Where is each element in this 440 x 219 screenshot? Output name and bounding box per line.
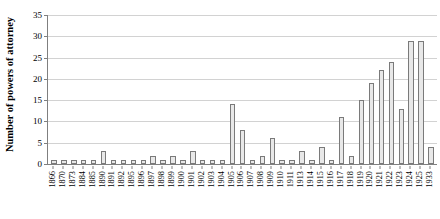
x-label-slot: 1873: [68, 166, 78, 218]
x-label-slot: 1900: [177, 166, 187, 218]
bar[interactable]: [299, 151, 304, 164]
bar-slot: [406, 15, 416, 164]
bar-slot: [317, 15, 327, 164]
x-axis-tick-label: 1902: [198, 171, 206, 188]
x-axis-tick-label: 1920: [366, 171, 374, 188]
bar[interactable]: [190, 151, 195, 164]
x-label-slot: 1914: [306, 166, 316, 218]
x-axis-tick-mark: [320, 166, 321, 169]
bar-slot: [238, 15, 248, 164]
bar[interactable]: [150, 156, 155, 165]
x-label-slot: 1910: [276, 166, 286, 218]
x-label-slot: 1909: [266, 166, 276, 218]
bar[interactable]: [260, 156, 265, 165]
x-axis-tick-mark: [350, 166, 351, 169]
x-axis-tick-mark: [429, 166, 430, 169]
x-axis-tick-mark: [271, 166, 272, 169]
bar-slot: [79, 15, 89, 164]
x-label-slot: 1921: [375, 166, 385, 218]
bar-slot: [267, 15, 277, 164]
bar-slot: [297, 15, 307, 164]
bar-slot: [426, 15, 436, 164]
bar[interactable]: [418, 41, 423, 164]
x-axis-tick-mark: [390, 166, 391, 169]
x-axis-tick-label: 1907: [247, 171, 255, 188]
x-axis-tick-label: 1901: [188, 171, 196, 188]
x-axis-tick-mark: [291, 166, 292, 169]
bar-slot: [158, 15, 168, 164]
x-axis-tick-labels: 1866187018731884188518901891189218951896…: [47, 166, 436, 218]
x-axis-tick-mark: [92, 166, 93, 169]
x-axis-tick-mark: [221, 166, 222, 169]
x-axis-tick-mark: [281, 166, 282, 169]
bar-slot: [287, 15, 297, 164]
x-axis-tick-label: 1916: [327, 171, 335, 188]
bar[interactable]: [230, 104, 235, 164]
bar[interactable]: [170, 156, 175, 165]
x-label-slot: 1924: [405, 166, 415, 218]
x-axis-tick-label: 1910: [277, 171, 285, 188]
x-axis-tick-mark: [132, 166, 133, 169]
x-axis-tick-mark: [142, 166, 143, 169]
bar[interactable]: [379, 70, 384, 164]
bar[interactable]: [240, 130, 245, 164]
x-label-slot: 1922: [385, 166, 395, 218]
x-label-slot: 1901: [187, 166, 197, 218]
x-axis-tick-label: 1892: [118, 171, 126, 188]
bar[interactable]: [428, 147, 433, 164]
x-label-slot: 1896: [137, 166, 147, 218]
bar-slot: [138, 15, 148, 164]
x-label-slot: 1915: [316, 166, 326, 218]
bar-slot: [247, 15, 257, 164]
x-axis-tick-mark: [102, 166, 103, 169]
bar[interactable]: [101, 151, 106, 164]
bar[interactable]: [339, 117, 344, 164]
x-label-slot: 1895: [127, 166, 137, 218]
x-axis-tick-mark: [410, 166, 411, 169]
x-axis-tick-mark: [172, 166, 173, 169]
x-axis-tick-mark: [360, 166, 361, 169]
x-axis-tick-label: 1891: [108, 171, 116, 188]
bar[interactable]: [369, 83, 374, 164]
bar-slot: [416, 15, 426, 164]
bar-slot: [218, 15, 228, 164]
x-axis-tick-mark: [370, 166, 371, 169]
bar[interactable]: [389, 62, 394, 164]
x-axis-tick-label: 1884: [79, 171, 87, 188]
x-axis-tick-mark: [191, 166, 192, 169]
x-axis-tick-mark: [181, 166, 182, 169]
bars-layer: [48, 15, 437, 164]
x-axis-tick-label: 1900: [178, 171, 186, 188]
x-axis-tick-label: 1899: [168, 171, 176, 188]
bar[interactable]: [408, 41, 413, 164]
x-axis-tick-label: 1906: [237, 171, 245, 188]
x-label-slot: 1902: [197, 166, 207, 218]
x-axis-tick-mark: [400, 166, 401, 169]
bar-slot: [118, 15, 128, 164]
x-axis-tick-mark: [330, 166, 331, 169]
x-axis-tick-label: 1925: [416, 171, 424, 188]
x-label-slot: 1918: [346, 166, 356, 218]
x-axis-tick-mark: [211, 166, 212, 169]
bar[interactable]: [349, 156, 354, 165]
x-label-slot: 1913: [296, 166, 306, 218]
bar[interactable]: [359, 100, 364, 164]
x-axis-tick-mark: [112, 166, 113, 169]
x-label-slot: 1897: [147, 166, 157, 218]
bar[interactable]: [319, 147, 324, 164]
y-axis-tick-label: 5: [38, 138, 43, 147]
x-axis-tick-mark: [82, 166, 83, 169]
bar[interactable]: [270, 138, 275, 164]
bar-slot: [168, 15, 178, 164]
x-label-slot: 1923: [395, 166, 405, 218]
x-axis-tick-label: 1919: [356, 171, 364, 188]
y-axis-title: Number of powers of attorney: [0, 0, 20, 168]
y-axis-tick-label: 15: [33, 96, 42, 105]
x-axis-line: [46, 164, 436, 165]
x-label-slot: 1911: [286, 166, 296, 218]
bar-slot: [228, 15, 238, 164]
bar[interactable]: [399, 109, 404, 164]
x-axis-tick-mark: [241, 166, 242, 169]
x-axis-tick-label: 1885: [88, 171, 96, 188]
x-axis-tick-mark: [201, 166, 202, 169]
